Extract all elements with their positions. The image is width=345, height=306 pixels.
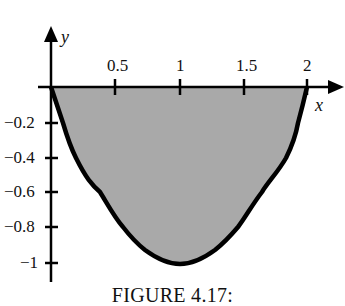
plot-area <box>0 0 345 306</box>
y-tick-label: −0.4 <box>4 149 35 166</box>
y-tick-label: −1 <box>20 254 38 271</box>
x-axis-label: x <box>315 96 323 114</box>
x-axis-arrow-icon <box>328 80 344 94</box>
x-tick-label: 1.5 <box>236 57 257 74</box>
y-axis-arrow-icon <box>44 26 58 42</box>
y-tick-label: −0.2 <box>4 114 35 131</box>
x-tick-label: 0.5 <box>107 57 128 74</box>
x-tick-label: 2 <box>303 57 312 74</box>
shaded-region <box>51 87 307 264</box>
y-tick-label: −0.6 <box>4 183 35 200</box>
x-tick-label: 1 <box>176 57 185 74</box>
y-axis-label: y <box>61 28 69 46</box>
figure-caption: FIGURE 4.17: <box>0 284 345 306</box>
figure: y x 0.5 1 1.5 2 −0.2 −0.4 −0.6 −0.8 −1 F… <box>0 0 345 306</box>
y-tick-label: −0.8 <box>4 218 35 235</box>
